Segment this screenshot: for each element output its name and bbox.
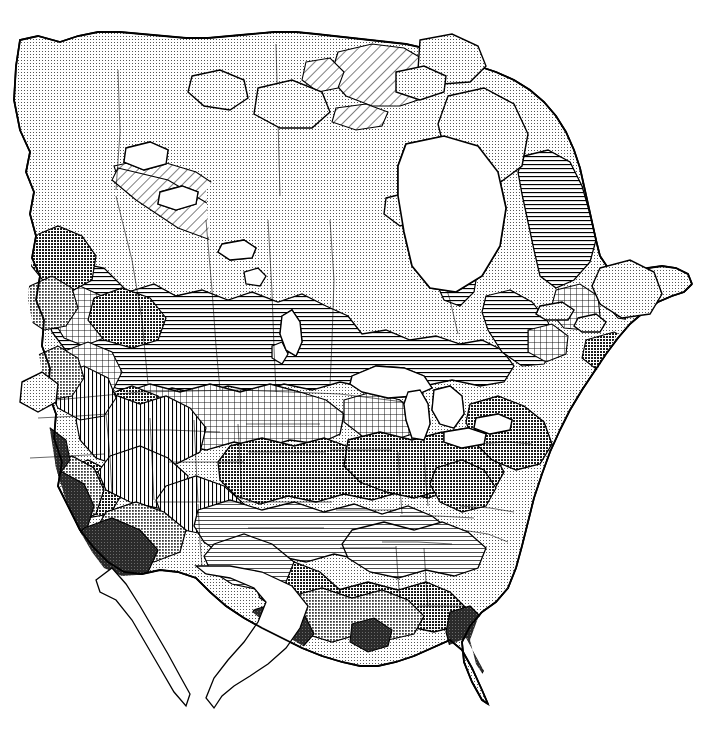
hardiness-zone-map: wide 45-degree diagonal line hatch very … — [0, 0, 709, 752]
map-canvas — [0, 0, 709, 752]
